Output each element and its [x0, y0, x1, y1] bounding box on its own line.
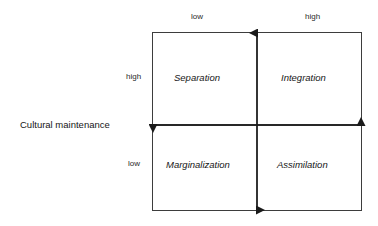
vertical-axis-high-label: high — [126, 71, 141, 82]
quadrant-label-assimilation: Assimilation — [277, 158, 328, 171]
quadrant-label-marginalization: Marginalization — [166, 158, 230, 171]
vertical-axis-low-label: low — [128, 158, 140, 169]
quadrant-label-separation: Separation — [174, 71, 220, 84]
diagram-canvas: Cultural maintenance low high high low S… — [0, 0, 378, 226]
horizontal-axis-low-label: low — [191, 11, 203, 22]
horizontal-axis-high-label: high — [305, 11, 320, 22]
quadrant-label-group: Separation Integration Marginalization A… — [152, 32, 362, 211]
vertical-axis-caption: Cultural maintenance — [20, 118, 110, 132]
quadrant-label-integration: Integration — [281, 71, 326, 84]
